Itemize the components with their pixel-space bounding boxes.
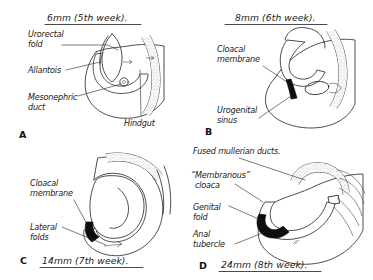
- panel-b-caption: 8mm (6th week).: [235, 12, 316, 23]
- panel-d-letter: D: [199, 260, 207, 271]
- label-membranous-cloaca-line2: cloaca: [195, 180, 220, 190]
- panel-c-illustration: Cloacal membrane Lateral folds 14mm (7th…: [0, 140, 186, 280]
- arrow-mark-1: [123, 60, 132, 64]
- label-cloacal-membrane-line1: Cloacal: [217, 44, 246, 54]
- leader-urorectal-fold: [62, 45, 118, 50]
- label-cloacal-membrane-line2: membrane: [217, 54, 260, 64]
- label-lateral-folds-line1: Lateral: [30, 222, 58, 232]
- label-genital-fold-line2: fold: [193, 212, 208, 222]
- panel-c-letter: C: [20, 255, 27, 266]
- label-mesonephric-duct-line2: duct: [28, 102, 46, 112]
- hindgut-wall: [327, 30, 347, 108]
- panel-b-letter: B: [205, 126, 212, 137]
- panel-d: Fused mullerian ducts. “Membranous” cloa…: [187, 140, 373, 280]
- label-mesonephric-duct-line1: Mesonephric: [28, 92, 78, 102]
- leader-genital-fold: [229, 206, 261, 220]
- leader-membranous-cloaca: [235, 184, 263, 202]
- leader-cloacal-membrane: [74, 200, 88, 226]
- panel-a: 6mm (5th week). Urorecta: [0, 0, 186, 140]
- panel-a-letter: A: [19, 129, 27, 140]
- panel-a-illustration: 6mm (5th week). Urorecta: [0, 0, 186, 140]
- panel-a-caption: 6mm (5th week).: [47, 12, 128, 23]
- label-urogenital-sinus-line1: Urogenital: [217, 105, 258, 115]
- label-membranous-cloaca-line1: “Membranous”: [191, 170, 251, 180]
- mesonephric-duct-lumen: [123, 81, 126, 84]
- cloacal-development-figure: 6mm (5th week). Urorecta: [0, 0, 373, 280]
- anal-tubercle-mark: [293, 240, 299, 244]
- leader-urogenital-sinus: [259, 96, 291, 118]
- label-allantois: Allantois: [27, 65, 62, 75]
- panel-d-illustration: Fused mullerian ducts. “Membranous” cloa…: [187, 140, 373, 280]
- cloacal-lumen: [280, 40, 325, 86]
- duct-right-outer: [164, 166, 171, 214]
- label-urorectal-fold-line2: fold: [28, 39, 43, 49]
- label-genital-fold-line1: Genital: [193, 202, 222, 212]
- label-urorectal-fold-line1: Urorectal: [28, 29, 64, 39]
- label-hindgut: Hindgut: [124, 118, 156, 128]
- panel-d-caption: 24mm (8th week).: [221, 259, 308, 270]
- panel-b: 8mm (6th week). Cloacal membrane Urogeni…: [187, 0, 373, 140]
- label-urogenital-sinus-line2: sinus: [217, 115, 238, 125]
- label-cloacal-membrane-line1: Cloacal: [30, 178, 59, 188]
- label-anal-tubercle-line1: Anal: [192, 229, 211, 239]
- cloacal-lumen: [90, 176, 144, 239]
- panel-c: Cloacal membrane Lateral folds 14mm (7th…: [0, 140, 186, 280]
- label-cloacal-membrane-line2: membrane: [30, 188, 73, 198]
- label-fused-mullerian-ducts: Fused mullerian ducts.: [193, 146, 280, 156]
- panel-c-caption: 14mm (7th week).: [42, 255, 129, 266]
- label-anal-tubercle-line2: tubercle: [193, 239, 225, 249]
- panel-b-illustration: 8mm (6th week). Cloacal membrane Urogeni…: [187, 0, 373, 140]
- label-lateral-folds-line2: folds: [30, 232, 49, 242]
